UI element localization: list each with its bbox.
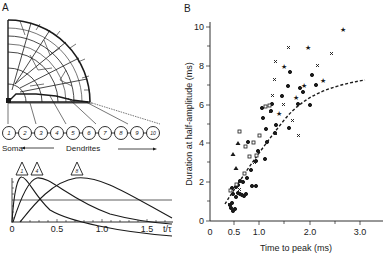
svg-text:★: ★ [320,77,326,84]
dendrite-tree-diagram [6,20,160,124]
x-tick-label: 1.5 [141,224,154,234]
x-axis-label: t/τ [163,224,172,234]
y-tick-label: 4 [199,138,204,148]
svg-text:★: ★ [305,44,311,51]
svg-text:8: 8 [76,168,79,174]
x-tick-label: 0 [207,227,212,237]
y-tick-label: 0 [199,216,204,226]
compartment-label: 2 [22,130,27,136]
y-tick-label: 2 [199,177,204,187]
compartment-label: 10 [150,130,156,136]
x-tick-label: 1.0 [253,227,266,237]
svg-text:★: ★ [293,94,299,101]
marker-triangle-8: 8 [71,162,83,175]
marker-triangle-4: 4 [31,162,43,175]
svg-text:★: ★ [276,110,282,117]
x-axis-title: Time to peak (ms) [260,243,332,253]
panel-a-letter: A [2,2,9,13]
soma-label: Soma [2,144,23,153]
x-tick-label: 2.0 [304,227,317,237]
svg-text:★: ★ [281,63,287,70]
compartment-chain: 1 2 3 4 5 6 7 8 9 10 [3,127,160,140]
svg-text:★: ★ [301,82,307,89]
epsp-curve-4 [13,178,172,224]
compartment-label: 1 [7,130,10,136]
arrow-right-icon [118,148,157,151]
y-tick-label: 8 [199,61,204,71]
marker-triangle-1: 1 [16,162,28,175]
x-tick-label: 0 [9,224,14,234]
arrow-left-icon [21,147,54,150]
series-filled-circle [228,70,317,212]
series-filled-triangle [231,141,241,170]
x-tick-label: 3.0 [354,227,367,237]
panel-b-letter: B [184,3,191,14]
x-tick-label: 1.0 [96,224,109,234]
x-tick-label: 0.5 [228,227,241,237]
scatter-points: ★ ★ ★ ★ ★ ★ ★ [228,26,346,213]
x-tick-label: 0.5 [51,224,64,234]
svg-text:4: 4 [36,168,39,174]
dendrites-label: Dendrites [66,144,100,153]
svg-text:★: ★ [340,26,346,33]
y-tick-label: 6 [199,100,204,110]
y-axis-title: Duration at half-amplitude (ms) [184,62,194,186]
figure: A [0,0,384,257]
y-tick-label: 10 [194,22,204,32]
svg-text:1: 1 [21,168,24,174]
